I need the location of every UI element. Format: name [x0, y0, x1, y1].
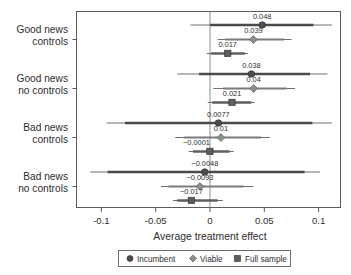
category-label-line1: Good news	[16, 24, 68, 35]
point-value-label: −0.0001	[183, 138, 210, 147]
estimate-row-good-news-no-controls: 0.038 0.04 0.021	[177, 61, 327, 106]
estimate-row-bad-news-controls: 0.0077 0.01 −0.0001	[107, 110, 332, 155]
category-label-line1: Good news	[16, 73, 68, 84]
x-tick-label: 0.1	[312, 215, 325, 226]
legend-label: Full sample	[245, 255, 287, 264]
square-marker	[229, 99, 235, 105]
point-value-label: 0.01	[214, 124, 228, 133]
estimate-row-good-news-controls: 0.048 0.039 0.017	[190, 12, 332, 57]
legend-label: Incumbent	[137, 255, 176, 264]
estimate-viable: −0.0093	[161, 173, 253, 190]
estimate-full-sample: 0.017	[207, 40, 248, 56]
estimate-full-sample: 0.021	[208, 89, 255, 105]
coefficient-plot: 0.048 0.039 0.017 0.038	[0, 0, 351, 275]
category-label-line2: no controls	[18, 183, 68, 194]
chart-svg: 0.048 0.039 0.017 0.038	[0, 0, 351, 275]
legend-label: Viable	[200, 255, 223, 264]
diamond-marker	[217, 134, 225, 142]
point-value-label: 0.021	[223, 89, 242, 98]
x-tick-label: -0.05	[145, 215, 167, 226]
circle-marker	[127, 256, 133, 262]
category-label-line1: Bad news	[23, 122, 68, 133]
x-tick-label: -0.1	[93, 215, 110, 226]
point-value-label: −0.017	[180, 187, 203, 196]
point-value-label: 0.017	[218, 40, 237, 49]
square-marker	[225, 50, 231, 56]
point-value-label: 0.039	[244, 26, 263, 35]
point-value-label: 0.038	[242, 61, 261, 70]
estimate-full-sample: −0.017	[173, 187, 223, 203]
x-tick-label: 0.05	[255, 215, 274, 226]
square-marker	[188, 197, 194, 203]
category-label-line2: no controls	[18, 85, 68, 96]
point-value-label: −0.0093	[186, 173, 213, 182]
legend: Incumbent Viable Full sample	[119, 251, 291, 267]
y-axis-labels: Good news controls Good news no controls…	[16, 24, 76, 194]
point-value-label: 0.04	[246, 75, 260, 84]
x-axis: -0.1 -0.05 0 0.05 0.1 Average treatment …	[93, 208, 325, 243]
diamond-marker	[250, 36, 258, 44]
diamond-marker	[250, 85, 258, 93]
point-value-label: 0.048	[253, 12, 272, 21]
square-marker	[207, 148, 213, 154]
point-value-label: 0.0077	[207, 110, 230, 119]
estimate-full-sample: −0.0001	[183, 138, 234, 154]
square-marker	[235, 256, 241, 262]
point-value-label: −0.0048	[191, 159, 218, 168]
x-axis-title: Average treatment effect	[153, 231, 267, 242]
category-label-line2: controls	[32, 134, 68, 145]
category-label-line1: Bad news	[23, 171, 68, 182]
estimate-row-bad-news-no-controls: −0.0048 −0.0093 −0.017	[90, 159, 320, 204]
x-tick-label: 0	[207, 215, 212, 226]
category-label-line2: controls	[32, 36, 68, 47]
